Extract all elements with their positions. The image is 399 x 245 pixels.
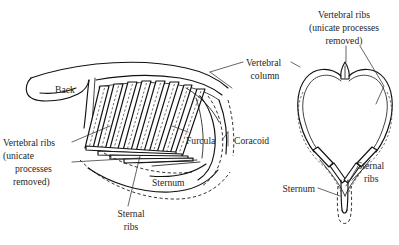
anatomy-diagram: Back Vertebral column Vertebral ribs (un… — [0, 0, 399, 245]
label-vertebral-column-line2: column — [251, 70, 280, 81]
label-sternal-ribs-right-line1: Sternal — [357, 160, 385, 171]
label-vertebral-ribs-left-line4: removed) — [13, 176, 50, 188]
label-vertebral-ribs-left-line1: Vertebral ribs — [3, 137, 55, 148]
label-vertebral-ribs-left-line2: (unicate — [3, 150, 34, 162]
sternum-keel-tip — [342, 210, 347, 213]
label-vertebral-ribs-right-line1: Vertebral ribs — [318, 9, 370, 20]
label-sternal-ribs-left-line2: ribs — [124, 221, 139, 232]
label-sternal-ribs-left-line1: Sternal — [117, 208, 145, 219]
label-vertebral-column-line1: Vertebral — [246, 57, 281, 68]
label-vertebral-ribs-right-line3: removed) — [326, 35, 363, 47]
ribcage-outer-arch — [349, 69, 392, 152]
label-vertebral-ribs-right-line2: (unicate processes — [309, 22, 379, 34]
sternal-rib-line — [152, 162, 200, 166]
label-sternum-left: Sternum — [152, 177, 185, 188]
cross-section-view — [298, 62, 392, 223]
ribcage-outer-arch — [298, 69, 341, 152]
label-sternum-right: Sternum — [282, 183, 315, 194]
leader-vertebral-column-fork — [210, 72, 232, 88]
label-vertebral-ribs-left-line3: processes — [15, 163, 52, 174]
ribcage-inner-arch — [349, 75, 387, 149]
label-back: Back — [55, 84, 75, 95]
lateral-view — [26, 62, 234, 199]
label-furcula: Furcula — [186, 135, 216, 146]
leader-sternum-right — [318, 188, 340, 196]
label-coracoid: Coracoid — [234, 135, 269, 146]
label-sternal-ribs-right-line2: ribs — [364, 173, 379, 184]
sternum-keel — [341, 180, 342, 210]
leader-vertebral-column-right — [291, 62, 300, 67]
sternum-keel-edge — [150, 164, 206, 177]
ribcage-inner-arch — [303, 75, 341, 149]
coracoid-dashed — [228, 100, 234, 156]
leader-sternal-ribs-left — [128, 156, 140, 206]
leader-vertebral-column-left — [210, 62, 243, 72]
